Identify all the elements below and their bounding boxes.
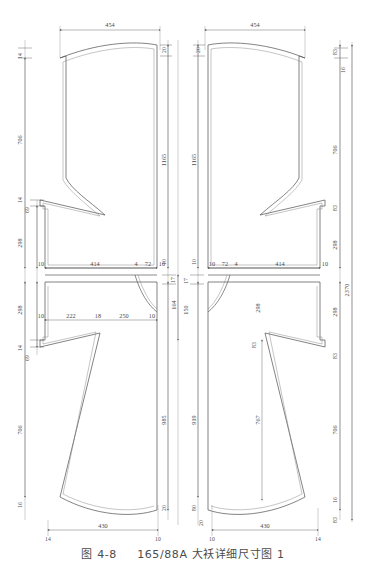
figure-caption: 图 4-8 165/88A 大袄详细尺寸图 1 bbox=[0, 545, 366, 561]
dim-10-waist-l1: 10 bbox=[38, 260, 44, 267]
dim-10-waist-r1: 10 bbox=[209, 260, 215, 267]
dim-14-mid-left: 14 bbox=[17, 197, 23, 203]
dim-222-left: 222 bbox=[66, 312, 76, 319]
dim-706-right-lower: 706 bbox=[331, 425, 338, 435]
dim-80-right: 80 bbox=[191, 505, 197, 511]
dim-298-right-upper: 298 bbox=[331, 240, 338, 250]
dim-17-right: 17 bbox=[183, 278, 189, 284]
left-panel-seam bbox=[43, 48, 154, 265]
right-panel-outline bbox=[208, 43, 325, 268]
dim-83-center-right: 83 bbox=[251, 342, 257, 348]
dim-414-right: 414 bbox=[275, 260, 285, 267]
right-armhole-curve bbox=[208, 275, 230, 312]
dim-919-right: 919 bbox=[190, 415, 197, 425]
right-lower-panel-seam bbox=[211, 286, 322, 510]
dim-454-right: 454 bbox=[250, 21, 260, 28]
dim-14-lower-left: 14 bbox=[17, 345, 23, 351]
dim-83-right-top: 83 bbox=[332, 49, 338, 55]
dim-4-right: 4 bbox=[234, 260, 237, 267]
dim-69-left-lower: 69 bbox=[24, 355, 30, 361]
dim-298-center-right: 298 bbox=[254, 303, 261, 313]
right-lower-panel-outline bbox=[208, 282, 325, 514]
dim-69-left-upper: 69 bbox=[24, 207, 30, 213]
dim-1165-right: 1165 bbox=[190, 154, 197, 167]
dim-20-right-bottom: 20 bbox=[198, 520, 204, 526]
dim-298-left-upper: 298 bbox=[16, 238, 23, 248]
dim-430-left: 430 bbox=[98, 522, 108, 529]
dim-10-bottom-left: 10 bbox=[155, 536, 161, 542]
dim-250-left: 250 bbox=[119, 312, 129, 319]
dim-4-left: 4 bbox=[134, 260, 137, 267]
dim-14-bottom-left: 14 bbox=[45, 536, 51, 542]
dim-10-waist-r2: 10 bbox=[322, 260, 328, 267]
dim-706-right-upper: 706 bbox=[331, 145, 338, 155]
dim-10-inner-left: 10 bbox=[161, 259, 167, 265]
dim-83-right-lower: 83 bbox=[332, 353, 338, 359]
dim-72-right: 72 bbox=[222, 260, 228, 267]
dim-164-left: 164 bbox=[170, 300, 177, 310]
dim-1165-left: 1165 bbox=[160, 154, 167, 167]
dim-83-right-mid: 83 bbox=[332, 205, 338, 211]
figure-caption-label: 图 4-8 bbox=[81, 548, 116, 561]
dim-10-bottom-right: 10 bbox=[209, 536, 215, 542]
figure-canvas: 454 454 10 414 4 72 10 10 222 18 250 10 … bbox=[0, 0, 366, 587]
dim-18-left: 18 bbox=[95, 312, 101, 319]
dim-414-left: 414 bbox=[90, 260, 100, 267]
dim-16-right-top: 16 bbox=[340, 67, 346, 73]
dim-14-bottom-right: 14 bbox=[315, 536, 321, 542]
dim-706-left-upper: 706 bbox=[16, 135, 23, 145]
dim-17-left: 17 bbox=[170, 277, 176, 283]
left-lower-panel-seam bbox=[43, 286, 154, 510]
left-armhole-curve bbox=[135, 275, 157, 312]
dim-767-right: 767 bbox=[254, 415, 261, 425]
dim-83-right-bottom: 83 bbox=[332, 517, 338, 523]
dim-72-left: 72 bbox=[145, 260, 151, 267]
dim-14-top-left: 14 bbox=[17, 53, 23, 59]
left-panel-outline bbox=[40, 43, 157, 268]
dim-2370-overall: 2370 bbox=[343, 284, 350, 297]
dim-20-right-top: 20 bbox=[195, 47, 201, 53]
dim-10-inner-right: 10 bbox=[191, 259, 197, 265]
dim-298-right-lower: 298 bbox=[331, 307, 338, 317]
figure-caption-title: 165/88A 大袄详细尺寸图 1 bbox=[137, 548, 284, 561]
dim-706-left-lower: 706 bbox=[16, 425, 23, 435]
dim-298-left-lower: 298 bbox=[16, 305, 23, 315]
pattern-drawing: 454 454 10 414 4 72 10 10 222 18 250 10 … bbox=[0, 0, 366, 587]
right-panel-seam bbox=[211, 48, 322, 265]
dim-16-right-bottom: 16 bbox=[332, 497, 338, 503]
dim-16-left: 16 bbox=[17, 502, 23, 508]
dim-20-left-bottom: 20 bbox=[161, 505, 167, 511]
dim-10-hip-l1: 10 bbox=[38, 312, 44, 319]
dim-985-left: 985 bbox=[160, 415, 167, 425]
dim-150-right: 150 bbox=[182, 305, 189, 315]
dim-454-left: 454 bbox=[105, 21, 115, 28]
dim-20-left-top: 20 bbox=[161, 47, 167, 53]
dim-10-hip-l2: 10 bbox=[149, 312, 155, 319]
dim-430-right: 430 bbox=[260, 522, 270, 529]
